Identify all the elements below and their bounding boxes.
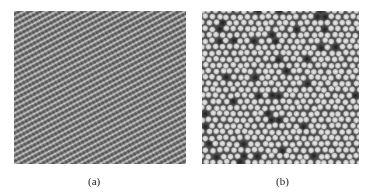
- caption-a: (a): [88, 175, 100, 187]
- caption-b: (b): [276, 175, 289, 187]
- panel-b-dot-lattice-image: [202, 11, 359, 164]
- dot-lattice: [202, 11, 359, 164]
- stripe-texture: [14, 11, 186, 164]
- panel-a-stripe-image: [14, 11, 186, 164]
